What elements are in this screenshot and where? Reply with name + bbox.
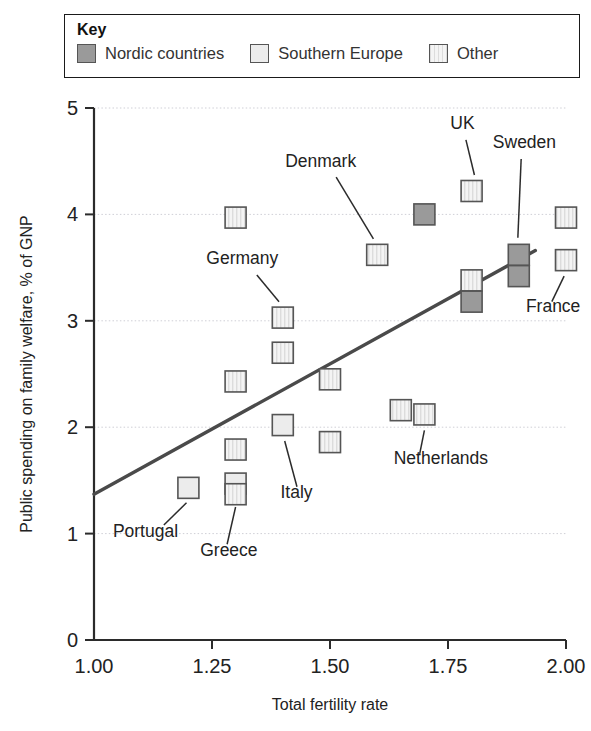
scatter-chart: 0123451.001.251.501.752.00 DenmarkUKSwed… [0, 86, 591, 731]
y-axis-title: Public spending on family welfare, % of … [18, 215, 35, 532]
point-label-italy: Italy [280, 482, 312, 502]
legend-items: Nordic countries Southern Europe Other [77, 44, 569, 63]
legend-label-southern-europe: Southern Europe [278, 44, 403, 63]
legend-swatch-other-icon [429, 44, 448, 63]
y-tick-label-4: 4 [67, 203, 78, 225]
data-point-9 [320, 432, 341, 453]
data-points [178, 180, 577, 504]
legend-title: Key [77, 21, 569, 39]
point-label-portugal: Portugal [113, 521, 178, 541]
x-axis-title: Total fertility rate [272, 696, 389, 713]
data-point-12 [390, 400, 411, 421]
data-point-7 [272, 342, 293, 363]
chart-canvas: 0123451.001.251.501.752.00 DenmarkUKSwed… [0, 86, 591, 731]
point-label-greece: Greece [200, 540, 257, 560]
leader-line-denmark [336, 177, 373, 239]
data-point-5 [225, 207, 246, 228]
leader-line-italy [285, 441, 297, 487]
data-point-denmark [367, 244, 388, 265]
leader-line-uk [466, 140, 474, 175]
x-tick-label-2.00: 2.00 [547, 655, 586, 677]
point-label-netherlands: Netherlands [394, 448, 489, 468]
legend-swatch-southern-europe-icon [250, 44, 269, 63]
legend-label-nordic: Nordic countries [105, 44, 224, 63]
data-point-uk [461, 180, 482, 201]
y-tick-label-0: 0 [67, 629, 78, 651]
x-tick-label-1.00: 1.00 [75, 655, 114, 677]
legend-item-other: Other [429, 44, 498, 63]
data-point-france [556, 250, 577, 271]
y-tick-label-2: 2 [67, 416, 78, 438]
data-point-greece [225, 484, 246, 505]
legend-item-nordic: Nordic countries [77, 44, 224, 63]
data-point-sweden [508, 244, 529, 265]
data-point-italy [272, 415, 293, 436]
leader-line-greece [227, 507, 235, 544]
data-point-19 [508, 266, 529, 287]
gridlines [94, 108, 566, 534]
legend: Key Nordic countries Southern Europe Oth… [64, 14, 580, 78]
x-tick-label-1.25: 1.25 [193, 655, 232, 677]
legend-label-other: Other [457, 44, 498, 63]
point-label-uk: UK [450, 113, 475, 133]
point-label-denmark: Denmark [285, 151, 356, 171]
data-point-10 [320, 369, 341, 390]
leader-line-sweden [518, 159, 521, 238]
point-label-sweden: Sweden [493, 132, 556, 152]
data-point-4 [225, 371, 246, 392]
point-label-france: France [526, 296, 580, 316]
point-label-germany: Germany [206, 248, 278, 268]
leader-line-germany [257, 275, 279, 302]
annotation-leader-lines [164, 140, 564, 544]
y-tick-label-3: 3 [67, 310, 78, 332]
data-point-3 [225, 439, 246, 460]
x-tick-label-1.50: 1.50 [311, 655, 350, 677]
data-point-16 [461, 270, 482, 291]
data-point-14 [414, 204, 435, 225]
y-tick-label-1: 1 [67, 523, 78, 545]
legend-item-southern-europe: Southern Europe [250, 44, 403, 63]
data-point-portugal [178, 477, 199, 498]
legend-swatch-nordic-icon [77, 44, 96, 63]
data-point-netherlands [414, 404, 435, 425]
data-point-17 [461, 291, 482, 312]
x-tick-label-1.75: 1.75 [429, 655, 468, 677]
data-point-20 [556, 207, 577, 228]
y-tick-label-5: 5 [67, 97, 78, 119]
data-point-germany [272, 307, 293, 328]
